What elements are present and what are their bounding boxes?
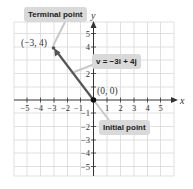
x-tick-label: −2 (61, 103, 70, 113)
x-tick-label: −3 (47, 103, 56, 113)
vector-diagram: x y −5 −4 −3 −2 −1 1 2 3 4 5 5 4 2 −1 −2… (0, 0, 193, 189)
x-tick-label: 4 (145, 103, 150, 113)
x-tick-label: 3 (132, 103, 136, 113)
y-tick-label: −4 (81, 148, 91, 158)
coordinate-plane: x y −5 −4 −3 −2 −1 1 2 3 4 5 5 4 2 −1 −2… (0, 0, 193, 189)
y-tick-label: 2 (86, 69, 90, 79)
x-tick-label: −5 (20, 103, 29, 113)
terminal-point-callout: Terminal point (24, 7, 87, 22)
x-tick-labels: −5 −4 −3 −2 −1 1 2 3 4 5 (20, 103, 162, 113)
x-tick-label: −4 (34, 103, 44, 113)
y-tick-label: −5 (81, 162, 90, 172)
x-tick-label: 1 (105, 103, 109, 113)
y-tick-label: −1 (81, 108, 90, 118)
initial-point-coords: (0, 0) (97, 86, 118, 97)
x-axis-label: x (179, 95, 185, 106)
y-tick-label: 5 (86, 29, 90, 39)
terminal-point-coords: (−3, 4) (21, 38, 47, 49)
x-tick-label: 5 (158, 103, 162, 113)
vector-equation-callout: v = −3i + 4j (92, 54, 141, 69)
x-axis-arrow-icon (171, 97, 178, 103)
y-axis-label: y (90, 10, 96, 21)
x-tick-label: 2 (118, 103, 122, 113)
initial-point-callout: Initial point (99, 120, 150, 135)
y-tick-label: −3 (81, 135, 90, 145)
terminal-point-dot (52, 46, 56, 50)
y-tick-label: −2 (81, 122, 90, 132)
initial-point-dot (91, 97, 97, 103)
